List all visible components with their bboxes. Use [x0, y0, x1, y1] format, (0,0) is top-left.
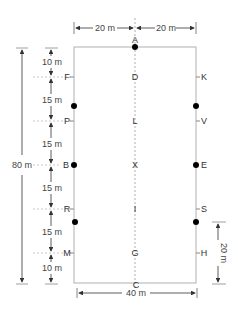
marker-dot	[193, 219, 199, 225]
letter-m: M	[63, 248, 71, 258]
letter-c: C	[133, 280, 140, 290]
marker-dot	[72, 219, 78, 225]
letter-b: B	[63, 160, 69, 170]
letter-l: L	[132, 116, 137, 126]
marker-dot	[193, 103, 199, 109]
letter-r: R	[64, 204, 71, 214]
dim-seg-2: 15 m	[42, 95, 62, 105]
letter-s: S	[201, 204, 207, 214]
letter-a: A	[132, 35, 138, 45]
letter-v: V	[201, 116, 207, 126]
arena-diagram: 20 m 20 m 40 m 80 m 10 m 15 m 15 m 15 m …	[0, 0, 238, 324]
letter-g: G	[131, 248, 138, 258]
dim-right-marker: 20 m	[219, 243, 229, 263]
dim-seg-1: 10 m	[42, 57, 62, 67]
marker-dot-b	[71, 162, 77, 168]
letter-h: H	[201, 248, 208, 258]
dim-seg-6: 10 m	[42, 263, 62, 273]
letter-f: F	[64, 72, 70, 82]
marker-dot-e	[193, 162, 199, 168]
marker-dot	[71, 103, 77, 109]
dim-top-right: 20 m	[156, 23, 176, 33]
letter-e: E	[201, 160, 207, 170]
letter-i: I	[134, 204, 137, 214]
dim-total-length: 80 m	[12, 160, 32, 170]
letter-x: X	[132, 160, 138, 170]
dim-top-left: 20 m	[95, 23, 115, 33]
letter-k: K	[201, 72, 207, 82]
dim-seg-4: 15 m	[42, 183, 62, 193]
letter-d: D	[132, 72, 139, 82]
dim-seg-3: 15 m	[42, 139, 62, 149]
letter-p: P	[64, 116, 70, 126]
dim-seg-5: 15 m	[42, 227, 62, 237]
